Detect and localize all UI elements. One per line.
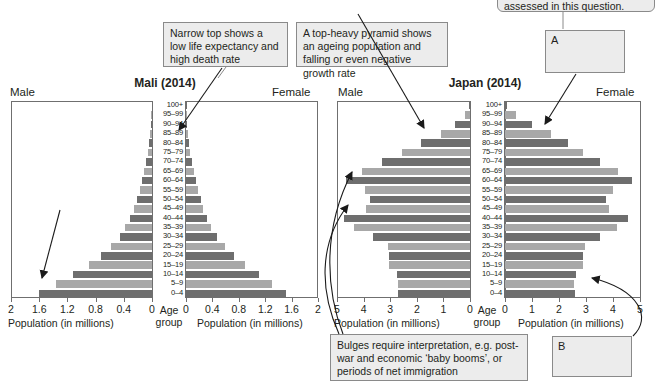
answer-box-a[interactable]: A — [545, 30, 625, 73]
age-label-20_24: 20–24 — [152, 251, 183, 260]
tick-label-left-0: 5 — [323, 303, 351, 315]
japan-female-label: Female — [596, 86, 634, 98]
tick-label-right-4: 4 — [599, 303, 627, 315]
bar-male-20_24 — [389, 252, 470, 260]
bar-female-0_4 — [186, 290, 286, 298]
tick-label-left-1: 1.6 — [25, 303, 53, 315]
callout-top-heavy: A top-heavy pyramid shows an ageing popu… — [296, 22, 448, 67]
bar-female-45_49 — [505, 205, 609, 213]
age-label-50_54: 50–54 — [470, 195, 502, 204]
bar-male-80_84 — [421, 139, 470, 147]
age-label-95_99: 95–99 — [152, 110, 183, 119]
tick-right-1 — [212, 298, 213, 302]
bar-female-95_99 — [505, 111, 516, 119]
age-label-40_44: 40–44 — [470, 214, 502, 223]
tick-left-3 — [417, 298, 418, 302]
bar-female-95_99 — [186, 111, 187, 119]
tick-right-0 — [505, 298, 506, 302]
age-label-5_9: 5–9 — [470, 279, 502, 288]
bar-female-5_9 — [186, 280, 272, 288]
bar-female-10_14 — [505, 271, 576, 279]
bar-male-30_34 — [373, 233, 470, 241]
bar-female-55_59 — [186, 186, 198, 194]
bar-male-65_69 — [362, 168, 470, 176]
bar-male-30_34 — [120, 233, 152, 241]
bar-female-30_34 — [505, 233, 600, 241]
age-label-0_4: 0–4 — [152, 289, 183, 298]
tick-label-right-2: 0.8 — [225, 303, 253, 315]
age-label-90_94: 90–94 — [470, 120, 502, 129]
age-label-65_69: 65–69 — [470, 167, 502, 176]
age-label-70_74: 70–74 — [470, 157, 502, 166]
tick-label-left-4: 0.4 — [110, 303, 138, 315]
bar-female-90_94 — [505, 121, 532, 129]
bar-female-20_24 — [186, 252, 234, 260]
tick-left-0 — [337, 298, 338, 302]
bar-male-15_19 — [89, 261, 152, 269]
age-label-45_49: 45–49 — [152, 204, 183, 213]
bar-male-55_59 — [365, 186, 470, 194]
bar-male-20_24 — [101, 252, 152, 260]
bar-male-25_29 — [388, 243, 470, 251]
age-label-80_84: 80–84 — [470, 139, 502, 148]
age-label-30_34: 30–34 — [470, 232, 502, 241]
bar-male-5_9 — [398, 280, 470, 288]
tick-label-left-3: 2 — [403, 303, 431, 315]
japan-age-group-caption: Agegroup — [464, 305, 510, 328]
age-label-15_19: 15–19 — [152, 261, 183, 270]
bar-female-25_29 — [505, 243, 585, 251]
bar-male-0_4 — [398, 290, 470, 298]
bar-male-75_79 — [402, 149, 470, 157]
tick-label-right-3: 1.2 — [251, 303, 279, 315]
bar-male-25_29 — [111, 243, 152, 251]
tick-label-left-1: 4 — [350, 303, 378, 315]
bar-male-50_54 — [370, 196, 470, 204]
bar-female-25_29 — [186, 243, 225, 251]
bar-female-75_79 — [505, 149, 583, 157]
age-label-85_89: 85–89 — [470, 129, 502, 138]
age-label-45_49: 45–49 — [470, 204, 502, 213]
callout-narrow-top: Narrow top shows a low life expectancy a… — [163, 22, 288, 67]
tick-right-4 — [613, 298, 614, 302]
answer-box-b[interactable]: B — [552, 336, 632, 377]
bar-male-60_64 — [346, 177, 470, 185]
age-label-10_14: 10–14 — [470, 270, 502, 279]
age-label-95_99: 95–99 — [470, 110, 502, 119]
age-label-70_74: 70–74 — [152, 157, 183, 166]
bar-male-35_39 — [125, 224, 152, 232]
bar-male-50_54 — [137, 196, 152, 204]
tick-left-1 — [364, 298, 365, 302]
bar-male-45_49 — [134, 205, 152, 213]
bar-male-40_44 — [344, 215, 470, 223]
tick-left-4 — [124, 298, 125, 302]
bar-female-85_89 — [505, 130, 551, 138]
bar-female-15_19 — [505, 261, 583, 269]
bar-male-60_64 — [142, 177, 152, 185]
tick-left-5 — [470, 298, 471, 302]
tick-label-right-3: 3 — [572, 303, 600, 315]
japan-chart-title: Japan (2014) — [430, 76, 540, 90]
bar-female-50_54 — [505, 196, 606, 204]
bar-male-40_44 — [130, 215, 152, 223]
mali-xlabel-right: Population (in millions) — [197, 317, 303, 329]
bar-female-30_34 — [186, 233, 217, 241]
bar-female-40_44 — [505, 215, 628, 223]
age-label-30_34: 30–34 — [152, 232, 183, 241]
age-label-65_69: 65–69 — [152, 167, 183, 176]
tick-right-2 — [559, 298, 560, 302]
age-label-25_29: 25–29 — [470, 242, 502, 251]
bar-female-85_89 — [186, 130, 188, 138]
age-label-10_14: 10–14 — [152, 270, 183, 279]
bar-female-20_24 — [505, 252, 583, 260]
tick-label-right-2: 2 — [545, 303, 573, 315]
age-label-25_29: 25–29 — [152, 242, 183, 251]
tick-label-right-4: 1.6 — [278, 303, 306, 315]
bar-female-60_64 — [505, 177, 632, 185]
mali-female-label: Female — [272, 86, 310, 98]
bar-female-75_79 — [186, 149, 190, 157]
japan-xlabel-right: Population (in millions) — [518, 317, 624, 329]
tick-label-right-1: 0.4 — [198, 303, 226, 315]
age-label-40_44: 40–44 — [152, 214, 183, 223]
tick-right-3 — [586, 298, 587, 302]
japan-male-label: Male — [338, 86, 363, 98]
